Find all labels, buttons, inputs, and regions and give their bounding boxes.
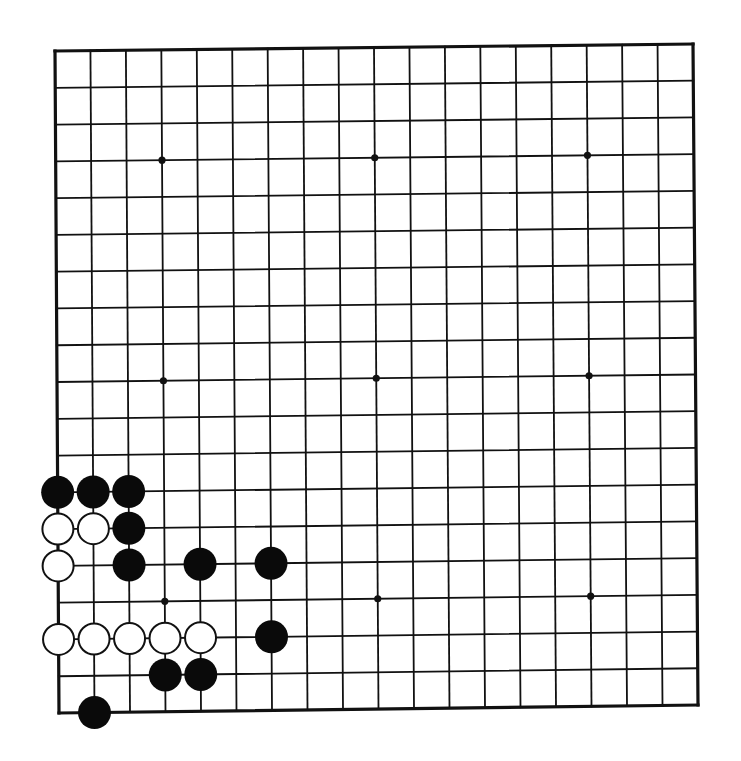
white-stone: [79, 624, 110, 655]
black-stone: [112, 475, 145, 508]
black-stone: [78, 696, 111, 729]
star-point: [161, 598, 168, 605]
white-stone: [114, 623, 145, 654]
black-stone: [149, 658, 182, 691]
white-stone: [43, 550, 74, 581]
star-point: [373, 375, 380, 382]
black-stone: [41, 476, 74, 509]
white-stone: [185, 622, 216, 653]
black-stone: [77, 475, 110, 508]
star-point: [584, 152, 591, 159]
star-point: [585, 372, 592, 379]
black-stone: [112, 512, 145, 545]
black-stone: [184, 548, 217, 581]
white-stone: [78, 513, 109, 544]
white-stone: [150, 623, 181, 654]
go-board[interactable]: [0, 0, 741, 761]
star-point: [158, 157, 165, 164]
star-point: [374, 595, 381, 602]
black-stone: [255, 620, 288, 653]
black-stone: [113, 549, 146, 582]
star-point: [371, 154, 378, 161]
white-stone: [42, 514, 73, 545]
black-stone: [255, 547, 288, 580]
star-points: [158, 152, 594, 605]
white-stone: [43, 624, 74, 655]
black-stone: [184, 658, 217, 691]
star-point: [160, 377, 167, 384]
star-point: [587, 593, 594, 600]
